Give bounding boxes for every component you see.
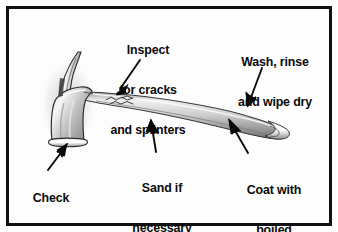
label-wash: Wash, rinse and wipe dry [219, 29, 331, 136]
label-sand: Sand if necessary [116, 155, 208, 232]
label-inspect-line1: Inspect [98, 44, 198, 57]
axe-poll [49, 138, 88, 147]
label-inspect-line3: and splinters [98, 124, 198, 137]
label-inspect: Inspect for cracks and splinters [98, 17, 198, 164]
label-check: Check tightness of head [8, 165, 94, 232]
label-sand-line1: Sand if [116, 182, 208, 195]
label-coat: Coat with boiled linseed oil [222, 157, 326, 232]
label-wash-line1: Wash, rinse [219, 56, 331, 69]
label-coat-line2: boiled [222, 224, 326, 232]
label-inspect-line2: for cracks [98, 84, 198, 97]
figure-root: Inspect for cracks and splinters Wash, r… [0, 0, 338, 232]
label-wash-line2: and wipe dry [219, 96, 331, 109]
label-coat-line1: Coat with [222, 184, 326, 197]
label-sand-line2: necessary [116, 222, 208, 232]
label-check-line1: Check [8, 192, 94, 205]
